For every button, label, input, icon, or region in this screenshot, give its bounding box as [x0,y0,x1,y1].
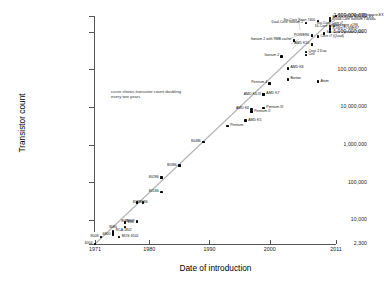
data-point [329,30,332,33]
y-tick-label: 1,000,000 [281,142,367,147]
x-tick-label: 2000 [250,247,290,252]
y-tick [89,220,94,221]
y-tick [89,32,94,33]
data-point [112,233,115,236]
data-point-label: 16-Core SPARC T3 [315,25,346,29]
data-point-label: AMD K6-III [244,93,261,97]
data-point [160,191,163,194]
data-point-label: 8086 [140,201,148,205]
data-point [311,34,314,37]
data-point [136,220,139,223]
data-point [262,93,265,96]
data-point-label: AMD K7 [266,92,279,96]
y-tick-label: 2,300 [281,241,367,246]
y-tick-label: 100,000 [281,180,367,185]
data-point-label: Atom [321,80,329,84]
data-point-label: 80286 [149,176,159,180]
x-axis-title: Date of introduction [95,263,336,273]
data-point-label: Itanium 2 [265,55,280,59]
data-point-label: Core 2 Duo [308,50,326,54]
data-point-label: 80186 [149,190,159,194]
data-point [287,67,290,70]
data-point [244,119,247,122]
data-point-label: RCA 1802 [116,229,132,233]
x-tick [149,240,150,244]
data-point [317,80,320,83]
data-point-label: Itanium 2 with 9MB cache [251,38,292,42]
data-point-label: 4004 [85,242,93,246]
y-axis-title: Transistor count [17,63,27,183]
data-point-label: 80486 [191,140,201,144]
data-point-label: 10-Core Xeon Westmere-EX [339,14,384,18]
data-point-label: Core i7 (Quad) [321,35,344,39]
data-point-label: Barton [290,77,300,81]
x-tick-label: 1990 [189,247,229,252]
data-point [262,107,265,110]
x-tick-label: 1980 [129,247,169,252]
data-point [287,78,290,81]
x-tick [270,240,271,244]
y-tick-label: 10,000 [281,217,367,222]
y-tick [89,145,94,146]
x-tick-label: 2011 [316,247,356,252]
trend-annotation: curve shows transistor count doubling ev… [111,89,185,99]
data-point [118,236,121,239]
data-point-label: Pentium II [254,110,270,114]
data-point-label: Six-Core Xeon 7400 [283,19,315,23]
data-point [112,230,115,233]
data-point-label: AMD K6 [236,107,249,111]
data-point [317,35,320,38]
data-point [311,43,314,46]
data-point-label: AMD K10 [294,42,309,46]
data-point-label: 6800 [103,233,111,237]
x-tick-label: 1971 [75,247,115,252]
data-point [202,141,205,144]
data-point-label: AMD K5 [248,119,261,123]
data-point [268,82,271,85]
data-point [226,125,229,128]
y-tick [89,182,94,183]
data-point [305,51,308,54]
data-point-label: Pentium III [266,106,283,110]
data-point-label: POWER6 [294,34,309,38]
data-point-label: Pentium [230,124,243,128]
y-tick [89,16,94,17]
data-point-label: 8008 [91,235,99,239]
data-point-label: 6809 [127,220,135,224]
data-point [160,176,163,179]
x-tick [209,240,210,244]
data-point-label: AMD K8 [290,67,303,71]
data-point [280,55,283,58]
data-point [178,164,181,167]
data-point-label: Pentium 4 [251,82,267,86]
data-point-label: 80386 [167,164,177,168]
data-point [305,54,308,57]
y-tick-label: 10,000,000 [281,104,367,109]
data-point [250,110,253,113]
y-tick [89,69,94,70]
y-tick [89,107,94,108]
x-tick [336,240,337,244]
data-point-label: MOS 6502 [122,235,139,239]
data-point [250,108,253,111]
y-axis-line [94,16,95,232]
data-point [323,32,326,35]
data-point-label: Six-Core Opteron 2400 [327,31,363,35]
